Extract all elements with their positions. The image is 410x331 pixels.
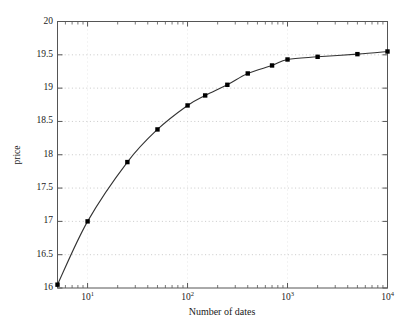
x-tick-mantissa: 10	[281, 292, 291, 302]
y-tick-label: 20	[28, 17, 53, 27]
x-tick-exponent: 4	[391, 290, 394, 297]
y-tick-label: 17	[28, 217, 53, 227]
plot-frame	[58, 22, 388, 289]
x-tick-label: 101	[81, 293, 94, 303]
x-tick-label: 103	[281, 293, 294, 303]
chart-figure: 1616.51717.51818.51919.520 101102103104 …	[0, 0, 410, 331]
x-tick-mantissa: 10	[81, 292, 91, 302]
x-tick-mantissa: 10	[181, 292, 191, 302]
price-vs-number-of-dates-plot	[0, 0, 410, 331]
x-axis-title: Number of dates	[189, 306, 256, 317]
y-tick-label: 17.5	[28, 183, 53, 193]
x-tick-label: 104	[381, 293, 394, 303]
axis-major-ticks	[58, 22, 388, 289]
y-tick-label: 19	[28, 83, 53, 93]
x-tick-exponent: 2	[191, 290, 194, 297]
y-tick-label: 16.5	[28, 250, 53, 260]
y-tick-label: 18.5	[28, 117, 53, 127]
x-tick-exponent: 1	[91, 290, 94, 297]
x-tick-mantissa: 10	[381, 292, 391, 302]
y-tick-label: 16	[28, 283, 53, 293]
x-tick-exponent: 3	[291, 290, 294, 297]
gridlines	[58, 22, 388, 289]
data-series-line	[58, 51, 388, 284]
y-axis-title: price	[12, 146, 22, 165]
data-series-markers	[55, 49, 389, 287]
x-tick-label: 102	[181, 293, 194, 303]
y-tick-label: 19.5	[28, 50, 53, 60]
y-tick-label: 18	[28, 150, 53, 160]
